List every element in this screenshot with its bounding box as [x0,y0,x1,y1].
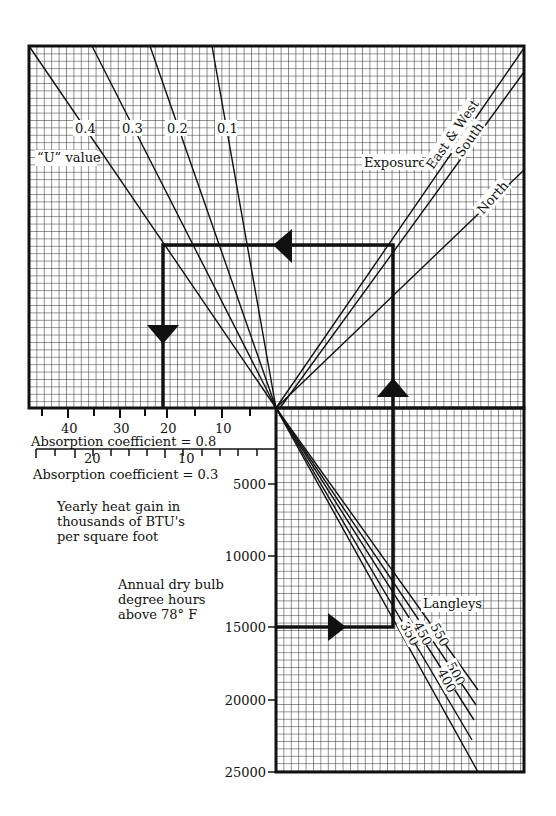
y-tick-10000: 10000 [225,549,266,564]
heat-gain-nomograph: 0.4 0.3 0.2 0.1 “U” value Exposure East … [0,0,556,816]
ac03-tick-20: 20 [84,451,101,466]
ac03-tick-10: 10 [178,451,195,466]
u-label-0.3: 0.3 [122,121,143,136]
ac08-axis-title: Absorption coefficient = 0.8 [30,434,216,449]
ac08-tick-10: 10 [215,421,232,436]
upper-panel [29,46,524,408]
heat-gain-title-line3: per square foot [57,529,159,544]
u-label-0.2: 0.2 [167,121,188,136]
u-value-title: “U” value [37,150,101,165]
y-tick-25000: 25000 [225,765,266,780]
exposure-title: Exposure [364,155,426,170]
u-label-0.4: 0.4 [75,121,96,136]
y-tick-5000: 5000 [233,477,266,492]
heat-gain-title-line1: Yearly heat gain in [56,499,181,514]
dry-bulb-title-line3: above 78° F [118,607,197,622]
ac03-axis-title: Absorption coefficient = 0.3 [32,467,218,482]
y-tick-15000: 15000 [225,620,266,635]
langleys-title: Langleys [423,596,482,611]
y-tick-20000: 20000 [225,693,266,708]
u-label-0.1: 0.1 [217,121,238,136]
heat-gain-title-line2: thousands of BTU's [57,514,185,529]
ac03-axis [36,449,276,458]
dry-bulb-title-line1: Annual dry bulb [117,577,224,592]
dry-bulb-title-line2: degree hours [118,592,206,607]
